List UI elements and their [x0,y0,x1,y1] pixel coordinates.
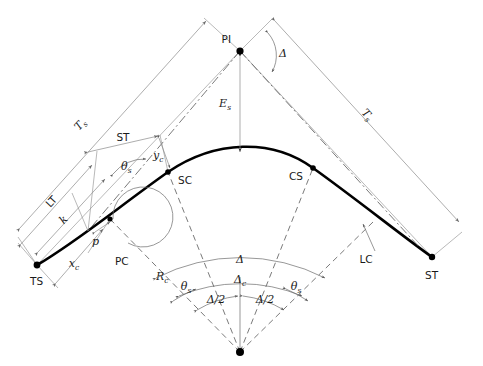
sc-point-dot [165,169,171,175]
delta-arc-label: Δ [235,253,244,266]
ts-label: TS [29,275,43,287]
center-angle-arcs-group: Δ Δc θs θs Δ/2 Δ/2 [156,253,325,310]
st-dim-ext-b [160,135,168,172]
yc-label: yc [152,149,164,164]
forward-tangent-line [240,51,432,257]
xc-label: xc [69,257,80,272]
long-tangent-label: LT [43,193,60,210]
dashdot-construction-group [88,51,420,248]
cs-label: CS [289,170,303,182]
offset-tangent-left [88,51,240,231]
st-label: ST [425,269,439,281]
lc-leader-line [363,224,375,251]
spiral-curve-diagram: Es Δ Ts Ts ST LT [0,0,483,366]
center-point-dot [236,348,244,356]
lc-leader-group: LC [359,224,375,265]
pc-leader-group: PC [113,187,173,267]
theta-s-right-label: θs [291,280,302,295]
st-point-dot [429,254,435,260]
tangent-left-label: Ts [72,116,90,134]
radius-to-pc [110,219,240,352]
st-dim-ext-a [88,151,97,231]
pi-point-dot [236,47,243,54]
theta-s-left-label: θs [181,280,192,295]
pc-label: PC [115,255,129,267]
delta-angle-arc [268,33,276,72]
lt-ext-a [18,243,37,265]
ts-right-ext-b [432,232,462,257]
radius-to-pt [240,222,373,352]
theta-s-upper-group: θs [113,159,146,175]
lc-label: LC [359,253,372,265]
cs-point-dot [310,165,316,171]
k-label: k [56,213,70,227]
sc-label: SC [178,174,192,186]
external-distance-group: Es [218,57,240,152]
pc-point-dot [107,216,112,221]
delta-half-left-label: Δ/2 [206,293,226,306]
yc-dimension-group: yc [152,138,170,168]
long-chord-line [313,168,432,257]
ts-left-ext-a [18,237,37,265]
delta-angle-pi-group: Δ [268,33,287,72]
back-tangent-line [37,51,240,265]
diagram-canvas: Es Δ Ts Ts ST LT [0,0,483,366]
short-tangent-label: ST [116,131,130,143]
long-tangent-dimension-group: LT [18,165,92,265]
pc-leader-arc [113,187,173,247]
delta-c-label: Δc [233,273,247,288]
theta-s-upper-label: θs [121,160,132,175]
ts-right-ext-a [240,18,273,51]
node-points-group [34,47,436,356]
radius-to-cs [240,168,313,352]
tangent-right-dimension-group: Ts [240,18,462,257]
delta-half-right-label: Δ/2 [255,293,275,306]
pi-label: PI [222,33,231,45]
ts-point-dot [34,262,41,269]
radius-to-sc [168,172,240,352]
delta-pi-label: Δ [278,47,287,60]
p-label: p [92,235,99,248]
external-label: Es [218,97,231,112]
yc-dimension-line [159,138,170,168]
tangent-right-label: Ts [358,106,376,124]
